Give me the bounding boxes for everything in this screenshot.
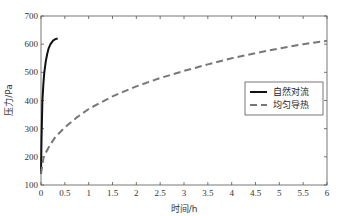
- x-tick-label: 3: [182, 188, 187, 198]
- x-tick-label: 2: [134, 188, 139, 198]
- y-tick-label: 700: [25, 11, 39, 21]
- x-tick-label: 5.5: [298, 188, 310, 198]
- legend-label: 自然对流: [273, 86, 309, 97]
- x-tick-label: 3.5: [202, 188, 214, 198]
- x-axis-label: 时间/h: [171, 203, 198, 214]
- x-tick-label: 4: [229, 188, 234, 198]
- x-tick-label: 1: [86, 188, 91, 198]
- y-tick-label: 300: [25, 124, 39, 134]
- y-tick-label: 600: [25, 39, 39, 49]
- y-tick-label: 500: [25, 67, 39, 77]
- x-tick-label: 6: [325, 188, 330, 198]
- legend-label: 均匀导热: [273, 99, 309, 110]
- series-line-0: [41, 39, 58, 174]
- y-tick-label: 400: [25, 96, 39, 106]
- legend: 自然对流均匀导热: [245, 82, 323, 115]
- y-tick-label: 200: [25, 152, 39, 162]
- y-tick-label: 100: [25, 180, 39, 190]
- y-axis-label: 压力/Pa: [3, 84, 14, 116]
- x-tick-label: 4.5: [250, 188, 262, 198]
- x-tick-label: 0.5: [59, 188, 71, 198]
- x-tick-label: 0: [39, 188, 44, 198]
- x-tick-label: 2.5: [155, 188, 167, 198]
- x-tick-label: 1.5: [107, 188, 119, 198]
- x-tick-label: 5: [277, 188, 282, 198]
- chart: 00.511.522.533.544.555.56100200300400500…: [0, 0, 338, 216]
